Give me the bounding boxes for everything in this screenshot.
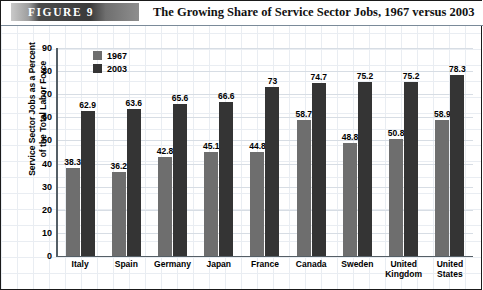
bar-value-label: 65.6 [172, 93, 189, 103]
bar-1967[interactable]: 38.3 [66, 168, 80, 257]
bar-2003[interactable]: 74.7 [312, 83, 326, 256]
bar-1967[interactable]: 42.8 [158, 157, 172, 256]
bar-1967[interactable]: 45.1 [204, 152, 218, 256]
bar-group: 48.875.2Sweden [334, 48, 380, 256]
bar-group: 58.978.3United States [427, 48, 473, 256]
y-axis-tick-label: 30 [42, 182, 52, 192]
x-axis-category-label: Canada [296, 259, 327, 269]
bar-1967[interactable]: 48.8 [343, 143, 357, 256]
bar-value-label: 74.7 [310, 72, 327, 82]
x-axis-category-label: Sweden [341, 259, 373, 269]
bar-value-label: 66.6 [218, 91, 235, 101]
bar-value-label: 58.7 [295, 109, 312, 119]
bar-value-label: 45.1 [203, 141, 220, 151]
bar-value-label: 44.8 [249, 141, 266, 151]
legend-item[interactable]: 1967 [93, 49, 127, 62]
bar-value-label: 38.3 [64, 157, 81, 167]
y-axis-tick-label: 60 [42, 112, 52, 122]
y-axis-tick-label: 20 [42, 205, 52, 215]
legend-swatch-icon [93, 64, 102, 73]
bar-2003[interactable]: 75.2 [358, 82, 372, 256]
page-title: The Growing Share of Service Sector Jobs… [153, 3, 475, 21]
x-axis-category-label: Spain [115, 259, 138, 269]
bar-value-label: 62.9 [79, 100, 96, 110]
bar-group: 58.774.7Canada [288, 48, 334, 256]
x-axis-category-label: United States [437, 259, 463, 279]
bar-value-label: 75.2 [403, 71, 420, 81]
bar-group: 38.362.9Italy [57, 48, 103, 256]
y-axis-tick-label: 90 [42, 43, 52, 53]
bar-1967[interactable]: 58.9 [435, 120, 449, 256]
bar-2003[interactable]: 63.6 [127, 109, 141, 256]
bar-value-label: 58.9 [434, 109, 451, 119]
bar-value-label: 36.2 [111, 161, 128, 171]
bar-value-label: 78.3 [449, 64, 466, 74]
bar-value-label: 50.8 [388, 128, 405, 138]
y-axis-tick-label: 10 [42, 228, 52, 238]
bar-2003[interactable]: 62.9 [81, 111, 95, 256]
y-axis-tick-label: 40 [42, 159, 52, 169]
figure-number-label: FIGURE 9 [11, 3, 111, 21]
bar-group: 44.873France [242, 48, 288, 256]
bar-group: 36.263.6Spain [103, 48, 149, 256]
bar-value-label: 75.2 [357, 71, 374, 81]
bar-group: 50.875.2United Kingdom [381, 48, 427, 256]
y-axis-tick-label: 0 [47, 251, 52, 261]
bar-group: 45.166.6Japan [196, 48, 242, 256]
x-axis-category-label: United Kingdom [385, 259, 422, 279]
y-axis-title-line1: Service Sector Jobs as a Percent [27, 42, 37, 176]
bar-2003[interactable]: 73 [265, 87, 279, 256]
x-axis-category-label: Germany [154, 259, 191, 269]
bar-value-label: 63.6 [126, 98, 143, 108]
bar-2003[interactable]: 78.3 [450, 75, 464, 256]
figure-header: FIGURE 9 The Growing Share of Service Se… [1, 1, 483, 26]
bar-value-label: 48.8 [342, 132, 359, 142]
bar-2003[interactable]: 66.6 [219, 102, 233, 256]
y-axis-title: Service Sector Jobs as a Percent of the … [27, 9, 49, 209]
bar-value-label: 73 [268, 76, 277, 86]
y-axis-tick-label: 50 [42, 135, 52, 145]
bar-value-label: 42.8 [157, 146, 174, 156]
legend-item[interactable]: 2003 [93, 62, 127, 75]
legend-label: 2003 [107, 64, 127, 74]
bar-groups: 38.362.9Italy36.263.6Spain42.865.6German… [57, 48, 473, 256]
bar-2003[interactable]: 75.2 [404, 82, 418, 256]
legend-label: 1967 [107, 51, 127, 61]
bar-group: 42.865.6Germany [149, 48, 195, 256]
y-axis-tick-label: 80 [42, 66, 52, 76]
y-axis-tick-label: 70 [42, 89, 52, 99]
x-axis-category-label: France [251, 259, 279, 269]
bar-1967[interactable]: 50.8 [389, 139, 403, 256]
chart-legend: 19672003 [93, 49, 127, 75]
bar-1967[interactable]: 36.2 [112, 172, 126, 256]
x-axis-category-label: Italy [72, 259, 89, 269]
legend-swatch-icon [93, 51, 102, 60]
bar-1967[interactable]: 58.7 [297, 120, 311, 256]
plot-area: 9080706050403020100 38.362.9Italy36.263.… [57, 48, 473, 256]
x-axis-category-label: Japan [206, 259, 231, 269]
bar-1967[interactable]: 44.8 [250, 152, 264, 256]
bar-2003[interactable]: 65.6 [173, 104, 187, 256]
